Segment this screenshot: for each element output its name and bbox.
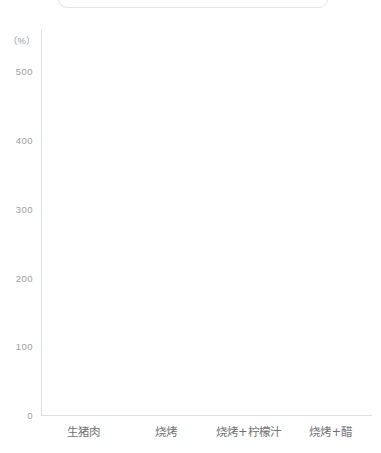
plot-area <box>42 30 372 415</box>
y-axis-tick-300: 300 <box>0 203 33 214</box>
y-axis-tick-500: 500 <box>0 66 33 77</box>
y-axis-unit-label: （%） <box>4 33 36 47</box>
x-axis-category-3: 烧烤+醋 <box>309 423 352 439</box>
x-axis-line <box>41 415 372 416</box>
x-axis-category-2: 烧烤+柠檬汁 <box>216 423 281 439</box>
x-axis-category-1: 烧烤 <box>155 423 177 439</box>
top-rounded-card <box>58 0 328 8</box>
x-axis-category-0: 生猪肉 <box>67 423 100 439</box>
y-axis-tick-200: 200 <box>0 272 33 283</box>
y-axis-tick-400: 400 <box>0 135 33 146</box>
y-axis-tick-100: 100 <box>0 341 33 352</box>
y-axis-tick-0: 0 <box>0 410 33 421</box>
bar-chart: （%） 0100200300400500 生猪肉烧烤烧烤+柠檬汁烧烤+醋 <box>0 0 381 453</box>
